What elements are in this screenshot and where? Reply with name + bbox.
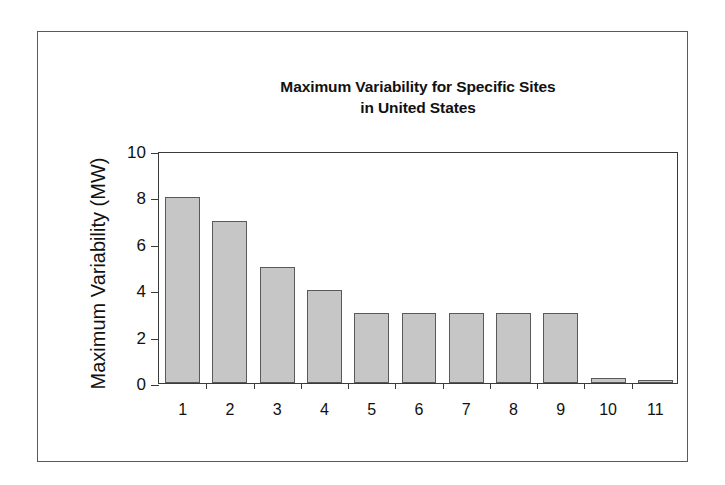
y-tick-label: 6 bbox=[137, 236, 146, 256]
y-tick-mark bbox=[151, 339, 159, 340]
y-tick-mark bbox=[151, 292, 159, 293]
x-tick-label: 1 bbox=[178, 401, 187, 419]
x-tick-mark bbox=[632, 383, 633, 389]
x-tick-mark bbox=[206, 383, 207, 389]
y-tick-label: 8 bbox=[137, 189, 146, 209]
figure-frame: Maximum Variability for Specific Sites i… bbox=[37, 31, 688, 462]
x-tick-label: 6 bbox=[415, 401, 424, 419]
bar-3 bbox=[260, 267, 295, 383]
x-tick-mark bbox=[490, 383, 491, 389]
x-tick-label: 8 bbox=[509, 401, 518, 419]
bar-7 bbox=[449, 313, 484, 383]
y-tick-label: 0 bbox=[137, 375, 146, 395]
bar-4 bbox=[307, 290, 342, 383]
y-tick-label: 4 bbox=[137, 282, 146, 302]
bar-2 bbox=[212, 221, 247, 383]
bar-5 bbox=[354, 313, 389, 383]
x-tick-mark bbox=[348, 383, 349, 389]
x-tick-mark bbox=[301, 383, 302, 389]
x-tick-mark bbox=[537, 383, 538, 389]
x-tick-label: 4 bbox=[320, 401, 329, 419]
bar-1 bbox=[165, 197, 200, 383]
bar-9 bbox=[543, 313, 578, 383]
x-tick-label: 11 bbox=[647, 401, 664, 419]
x-tick-mark bbox=[443, 383, 444, 389]
y-tick-label: 10 bbox=[127, 143, 146, 163]
chart-title: Maximum Variability for Specific Sites i… bbox=[158, 77, 678, 119]
x-tick-label: 7 bbox=[462, 401, 471, 419]
y-tick-mark bbox=[151, 385, 159, 386]
x-tick-label: 10 bbox=[599, 401, 617, 419]
x-tick-label: 5 bbox=[367, 401, 376, 419]
x-tick-mark bbox=[584, 383, 585, 389]
x-tick-mark bbox=[254, 383, 255, 389]
bar-8 bbox=[496, 313, 531, 383]
x-tick-label: 9 bbox=[556, 401, 565, 419]
x-tick-mark bbox=[395, 383, 396, 389]
y-tick-label: 2 bbox=[137, 329, 146, 349]
bar-6 bbox=[402, 313, 437, 383]
plot-area: 0246810 1234567891011 bbox=[158, 152, 678, 384]
x-tick-label: 2 bbox=[225, 401, 234, 419]
bar-11 bbox=[638, 380, 673, 383]
y-tick-mark bbox=[151, 153, 159, 154]
y-tick-mark bbox=[151, 199, 159, 200]
y-axis-title: Maximum Variability (MW) bbox=[87, 154, 110, 394]
bar-10 bbox=[591, 378, 626, 383]
y-tick-mark bbox=[151, 246, 159, 247]
x-tick-label: 3 bbox=[273, 401, 282, 419]
